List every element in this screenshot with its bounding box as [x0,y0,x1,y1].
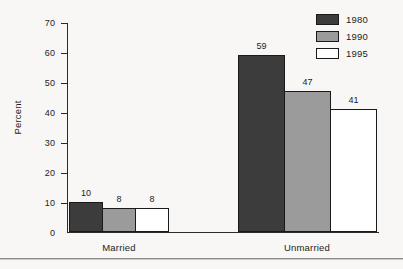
x-axis-line [67,232,379,233]
bar-chart-figure: Percent 70 60 50 40 30 20 10 0 10 8 8 Ma… [0,0,403,269]
y-tick-label-40: 40 [15,109,55,118]
bar-value-unmarried-1995: 41 [330,96,377,105]
y-tick-label-60: 60 [15,49,55,58]
legend-item-1980: 1980 [316,11,368,28]
y-axis-line [67,23,68,233]
y-tick-label-50: 50 [15,79,55,88]
bar-value-married-1980: 10 [69,189,103,198]
y-tick-label-0: 0 [15,229,55,238]
y-tick-label-20: 20 [15,169,55,178]
footer-divider-shadow [0,259,403,260]
y-tick-70 [61,23,67,24]
y-tick-label-70: 70 [15,19,55,28]
legend-label-1990: 1990 [346,32,368,42]
bar-unmarried-1980 [238,55,285,232]
bar-value-married-1990: 8 [102,195,136,204]
mid-gray-swatch-icon [316,31,339,42]
legend-item-1995: 1995 [316,45,368,62]
y-tick-40 [61,113,67,114]
y-tick-50 [61,83,67,84]
bar-married-1990 [102,208,136,232]
bar-married-1995 [135,208,169,232]
group-label-unmarried: Unmarried [257,243,357,253]
legend-item-1990: 1990 [316,28,368,45]
y-tick-label-10: 10 [15,199,55,208]
group-label-married: Married [69,243,169,253]
bar-unmarried-1995 [330,109,377,232]
y-tick-20 [61,173,67,174]
legend: 1980 1990 1995 [316,11,368,62]
bar-married-1980 [69,202,103,232]
legend-label-1980: 1980 [346,15,368,25]
bar-value-unmarried-1980: 59 [238,42,285,51]
legend-label-1995: 1995 [346,49,368,59]
bar-value-married-1995: 8 [135,195,169,204]
white-swatch-icon [316,48,339,59]
dark-gray-swatch-icon [316,14,339,25]
y-tick-10 [61,203,67,204]
y-tick-60 [61,53,67,54]
y-tick-30 [61,143,67,144]
bar-value-unmarried-1990: 47 [284,78,331,87]
bar-unmarried-1990 [284,91,331,232]
y-tick-label-30: 30 [15,139,55,148]
